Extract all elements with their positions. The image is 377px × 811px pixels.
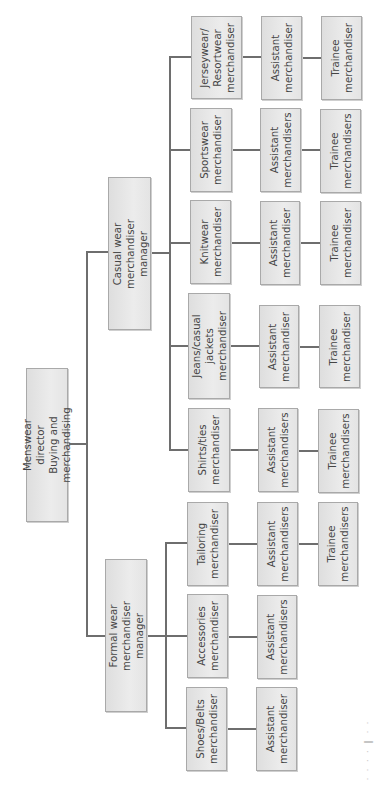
node-label: Trainee merchandisers (325, 506, 351, 581)
node-jersey-trainee: Trainee merchandiser (321, 16, 362, 100)
node-label: Assistant merchandiser (267, 208, 293, 278)
branch-tailoring (165, 542, 187, 544)
chain-tailoring-2 (298, 543, 318, 545)
node-label: Casual wear merchandiser manager (110, 219, 149, 289)
chain-jeans-1 (230, 345, 259, 347)
node-sportswear-assistant: Assistant merchandisers (260, 108, 301, 192)
figure-caption-fragment: · · · · ‖ · · (362, 700, 374, 800)
node-sportswear-trainee: Trainee merchandisers (320, 109, 361, 193)
branch-shoes (165, 727, 186, 729)
node-label: Sportswear merchandiser (198, 115, 224, 185)
node-shoes-merchandiser: Shoes/Belts merchandiser (186, 687, 227, 771)
chain-jeans-2 (299, 346, 319, 348)
chain-sports-1 (232, 149, 260, 151)
node-label: Jeans/casual jackets merchandiser (190, 311, 229, 381)
node-knitwear-assistant: Assistant merchandiser (260, 201, 300, 285)
connector-casual-manager (86, 251, 108, 253)
node-label: Assistant merchandisers (265, 506, 291, 581)
connector-formal-spine (146, 635, 166, 637)
node-tailoring-merchandiser: Tailoring merchandiser (187, 502, 228, 586)
caption-text: · · · · ‖ · · (364, 720, 373, 781)
node-label: Shoes/Belts merchandiser (194, 694, 220, 764)
node-label: Trainee merchandiser (328, 208, 354, 278)
node-director: Menswear director Buying and merchandisi… (26, 368, 68, 522)
node-label: Knitwear merchandiser (198, 207, 224, 277)
node-label: Formal wear merchandiser manager (107, 601, 146, 671)
spine-director (86, 251, 88, 637)
branch-accessories (165, 635, 187, 637)
node-jersey-merchandiser: Jerseywear/ Resortwear merchandiser (191, 16, 242, 99)
node-knitwear-merchandiser: Knitwear merchandiser (190, 200, 231, 284)
chain-knit-1 (231, 242, 260, 244)
node-knitwear-trainee: Trainee merchandiser (320, 201, 361, 285)
node-label: Trainee merchandiser (329, 23, 355, 93)
node-label: Assistant merchandisers (264, 599, 290, 674)
node-label: Trainee merchandisers (326, 413, 352, 488)
branch-shirts (169, 449, 189, 451)
node-formal-manager: Formal wear merchandiser manager (105, 559, 147, 712)
branch-jersey (169, 56, 191, 58)
node-label: Tailoring merchandiser (195, 509, 221, 579)
branch-jeans (169, 345, 189, 347)
chain-accessories-1 (228, 636, 257, 638)
node-jeans-merchandiser: Jeans/casual jackets merchandiser (188, 293, 230, 399)
chain-jersey-1 (242, 56, 261, 58)
spine-casual (169, 56, 171, 451)
node-label: Jerseywear/ Resortwear merchandiser (197, 23, 236, 93)
node-shirts-merchandiser: Shirts/ties merchandiser (188, 408, 230, 492)
node-label: Assistant merchandisers (268, 112, 294, 187)
node-label: Assistant merchandiser (266, 312, 292, 382)
chain-shoes-1 (227, 728, 256, 730)
node-label: Assistant merchandiser (269, 23, 295, 93)
node-shoes-assistant: Assistant merchandiser (256, 687, 297, 771)
node-label: Accessories merchandiser (195, 601, 221, 671)
chain-shirts-2 (298, 450, 318, 452)
chain-shirts-1 (229, 449, 258, 451)
branch-knit (169, 242, 191, 244)
node-sportswear-merchandiser: Sportswear merchandiser (190, 108, 232, 192)
node-tailoring-trainee: Trainee merchandisers (318, 502, 358, 586)
chain-sports-2 (301, 149, 321, 151)
node-shirts-assistant: Assistant merchandisers (258, 408, 298, 492)
node-jeans-trainee: Trainee merchandiser (319, 305, 360, 388)
chain-knit-2 (300, 242, 320, 244)
node-accessories-assistant: Assistant merchandisers (257, 595, 297, 679)
node-label: Trainee merchandiser (327, 312, 353, 382)
node-casual-manager: Casual wear merchandiser manager (108, 177, 151, 330)
node-label: Assistant merchandisers (265, 412, 291, 487)
node-shirts-trainee: Trainee merchandisers (318, 409, 359, 493)
node-jeans-assistant: Assistant merchandiser (259, 305, 299, 388)
chain-tailoring-1 (228, 543, 257, 545)
connector-formal-manager (86, 635, 106, 637)
node-tailoring-assistant: Assistant merchandisers (257, 502, 298, 586)
node-accessories-merchandiser: Accessories merchandiser (187, 594, 228, 678)
branch-sports (169, 149, 191, 151)
node-label: Assistant merchandiser (264, 694, 290, 764)
node-label: Shirts/ties merchandiser (196, 415, 222, 485)
connector-casual-spine (150, 252, 170, 254)
chain-jersey-2 (302, 57, 321, 59)
node-label: Trainee merchandisers (328, 113, 354, 188)
node-label: Menswear director Buying and merchandisi… (21, 407, 73, 482)
node-jersey-assistant: Assistant merchandiser (261, 16, 302, 100)
